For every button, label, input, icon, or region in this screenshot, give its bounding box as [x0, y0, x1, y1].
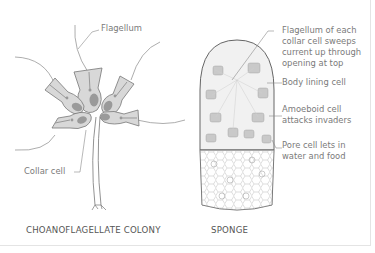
label-amoeboid-cell: Amoeboid cell attacks invaders	[282, 104, 351, 126]
label-pore-cell: Pore cell lets in water and food	[282, 140, 345, 162]
label-flagellum: Flagellum	[101, 23, 142, 34]
label-sponge-flagellum: Flagellum of each collar cell sweeps cur…	[282, 25, 361, 69]
label-collar-cell: Collar cell	[24, 166, 65, 177]
choanoflagellate-colony-drawing	[15, 25, 185, 210]
caption-sponge: SPONGE	[211, 225, 248, 235]
label-body-lining-cell: Body lining cell	[282, 77, 346, 88]
sponge-drawing	[200, 31, 282, 210]
caption-choanoflagellate-colony: CHOANOFLAGELLATE COLONY	[26, 225, 161, 235]
